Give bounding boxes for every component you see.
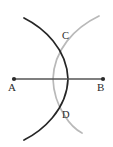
point-label-a: A <box>8 82 16 93</box>
point-label-c: C <box>62 31 69 42</box>
point-label-d: D <box>62 110 70 121</box>
point-label-b: B <box>97 82 104 93</box>
arc-centered-at-b <box>53 16 99 133</box>
figure-canvas <box>0 0 113 147</box>
geometry-figure: A B C D <box>0 0 113 147</box>
